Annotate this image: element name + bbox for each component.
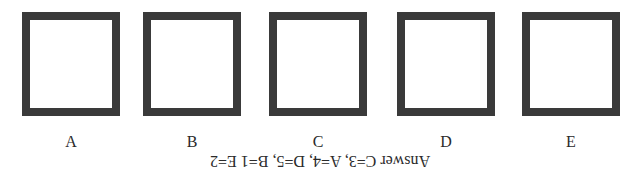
- box-c: [269, 12, 367, 116]
- answer-text: Answer C=3, A=4, D=5, B=1 E=2: [200, 152, 440, 170]
- label-c: C: [268, 133, 368, 151]
- label-b: B: [142, 133, 242, 151]
- box-a: [22, 12, 120, 116]
- box-b: [143, 12, 241, 116]
- label-a: A: [21, 133, 121, 151]
- label-e: E: [521, 133, 621, 151]
- box-d: [397, 12, 495, 116]
- box-e: [522, 12, 620, 116]
- label-d: D: [396, 133, 496, 151]
